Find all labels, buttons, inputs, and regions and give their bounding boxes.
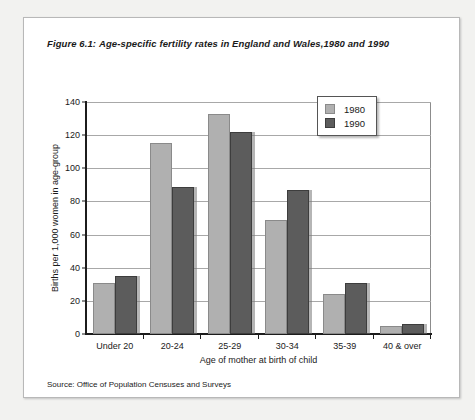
bar-1980-25-29: [208, 114, 230, 334]
chart-legend: 1980 1990: [317, 96, 377, 136]
x-axis-labels: Under 2020-2425-2930-3435-3940 & over: [86, 341, 431, 351]
bar-series-layer: [86, 102, 431, 334]
x-axis-tick-label: 20-24: [144, 341, 202, 351]
x-axis-tick: [201, 334, 259, 339]
y-axis-tick-label: 140: [65, 97, 80, 107]
y-axis-tick-label: 60: [70, 230, 80, 240]
y-axis-tick-label: 20: [70, 296, 80, 306]
bar-1990-Under-20: [115, 276, 137, 334]
y-axis-line: [85, 101, 87, 335]
x-axis-tick-label: Under 20: [86, 341, 144, 351]
legend-swatch-1990: [325, 118, 335, 128]
y-axis-title: Births per 1,000 women in age-group: [50, 102, 64, 334]
legend-item: 1990: [325, 116, 365, 130]
x-axis-tick-label: 25-29: [201, 341, 259, 351]
bar-1990-35-39: [345, 283, 367, 334]
bar-1980-35-39: [323, 294, 345, 334]
figure-panel: Figure 6.1:Age-specific fertility rates …: [23, 17, 460, 398]
chart-plot-area: 020406080100120140 Under 2020-2425-2930-…: [86, 102, 431, 334]
legend-label-1980: 1980: [344, 104, 365, 115]
x-axis-title: Age of mother at birth of child: [86, 355, 431, 365]
bar-group: [86, 102, 144, 334]
bar-group: [259, 102, 317, 334]
x-axis-tick-label: 35-39: [316, 341, 374, 351]
x-axis-tick: [86, 334, 144, 339]
bar-1990-25-29: [230, 132, 252, 334]
legend-swatch-1980: [325, 104, 335, 114]
y-axis-tick-label: 80: [70, 196, 80, 206]
bar-1990-40---over: [402, 324, 424, 334]
x-axis-tick-mark: [430, 334, 431, 339]
x-axis-tick-label: 30-34: [259, 341, 317, 351]
x-axis-tick: [144, 334, 202, 339]
bar-group: [201, 102, 259, 334]
y-axis-tick-label: 100: [65, 163, 80, 173]
bar-1980-Under-20: [93, 283, 115, 334]
bar-1990-30-34: [287, 190, 309, 334]
y-axis-tick-label: 0: [75, 329, 80, 339]
legend-item: 1980: [325, 102, 365, 116]
y-axis-tick-label: 40: [70, 263, 80, 273]
bar-1980-30-34: [265, 220, 287, 334]
bar-1980-40---over: [380, 326, 402, 334]
figure-title-text: Age-specific fertility rates in England …: [99, 38, 389, 49]
x-axis-tick: [259, 334, 317, 339]
figure-title: Figure 6.1:Age-specific fertility rates …: [47, 38, 389, 49]
x-axis-tick-label: 40 & over: [374, 341, 432, 351]
bar-group: [316, 102, 374, 334]
x-axis-tick: [316, 334, 374, 339]
figure-number: Figure 6.1:: [47, 38, 99, 49]
legend-label-1990: 1990: [344, 118, 365, 129]
bar-1980-20-24: [150, 143, 172, 334]
source-note: Source: Office of Population Censuses an…: [47, 380, 231, 389]
bar-group: [374, 102, 432, 334]
bar-group: [144, 102, 202, 334]
x-axis-tick: [374, 334, 432, 339]
x-axis-ticks: [86, 334, 431, 339]
y-axis-tick-label: 120: [65, 130, 80, 140]
bar-1990-20-24: [172, 187, 194, 334]
